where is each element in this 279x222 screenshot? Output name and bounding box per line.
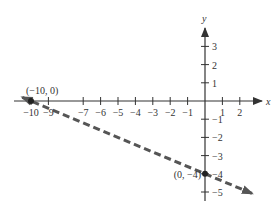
point-marker-a xyxy=(28,98,34,104)
x-tick-label: −4 xyxy=(130,107,141,118)
x-tick-label: −1 xyxy=(182,107,193,118)
x-tick-label: −5 xyxy=(113,107,124,118)
y-tick-label: −2 xyxy=(212,132,223,143)
y-axis-label: y xyxy=(201,13,207,24)
y-tick-label: −5 xyxy=(212,187,223,198)
point-marker-b xyxy=(202,171,208,177)
x-tick-label: −7 xyxy=(78,107,89,118)
y-tick-label: 1 xyxy=(212,78,217,89)
x-tick-label: 2 xyxy=(237,107,242,118)
data-points: (−10, 0)(0, −4) xyxy=(26,85,208,181)
x-tick-label: −10 xyxy=(23,107,39,118)
y-tick-label: −3 xyxy=(212,151,223,162)
x-axis-label: x xyxy=(265,96,271,107)
x-tick-label: −2 xyxy=(165,107,176,118)
coordinate-graph: xy −10−9−7−6−5−4−3−2−112321−1−2−3−4−5 (−… xyxy=(0,0,279,222)
y-tick-label: 3 xyxy=(212,41,217,52)
x-tick-label: −3 xyxy=(147,107,158,118)
point-label-a: (−10, 0) xyxy=(26,85,58,97)
y-tick-label: −1 xyxy=(212,114,223,125)
point-label-b: (0, −4) xyxy=(174,169,201,181)
x-tick-label: −6 xyxy=(95,107,106,118)
y-tick-label: 2 xyxy=(212,60,217,71)
